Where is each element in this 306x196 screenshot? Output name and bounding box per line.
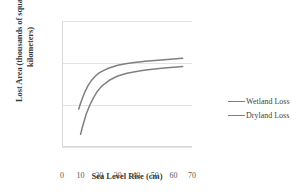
series-lines (62, 21, 192, 147)
line-wetland-loss (79, 58, 183, 109)
legend-label-dryland-loss: Dryland Loss (246, 111, 289, 120)
chart-figure: Lost Area (thousands of square kilometer… (0, 0, 306, 196)
legend-swatch-dryland-loss (228, 115, 245, 116)
legend-item-wetland-loss[interactable]: Wetland Loss (228, 94, 306, 108)
gridline-0.1 (62, 147, 192, 148)
chart-legend: Wetland Loss Dryland Loss (228, 94, 306, 122)
legend-item-dryland-loss[interactable]: Dryland Loss (228, 108, 306, 122)
y-axis-title: Lost Area (thousands of square kilometer… (14, 0, 40, 122)
y-axis-title-line-1: Lost Area (thousands of square (14, 0, 24, 102)
legend-label-wetland-loss: Wetland Loss (246, 97, 290, 106)
x-axis-title: Sea Level Rise (cm) (62, 171, 192, 181)
plot-area: 0 10 20 30 40 50 60 70 (62, 21, 192, 147)
line-dryland-loss (81, 67, 183, 135)
legend-swatch-wetland-loss (228, 101, 245, 102)
y-axis-title-line-2: kilometers) (25, 27, 35, 67)
